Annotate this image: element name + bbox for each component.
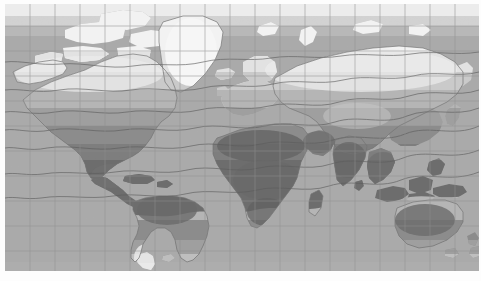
map-canvas[interactable]	[5, 4, 479, 271]
grain-overlay	[5, 4, 479, 271]
world-map-figure: World Map equirectangular Shading bands …	[0, 0, 481, 281]
world-map-svg[interactable]	[5, 4, 479, 271]
